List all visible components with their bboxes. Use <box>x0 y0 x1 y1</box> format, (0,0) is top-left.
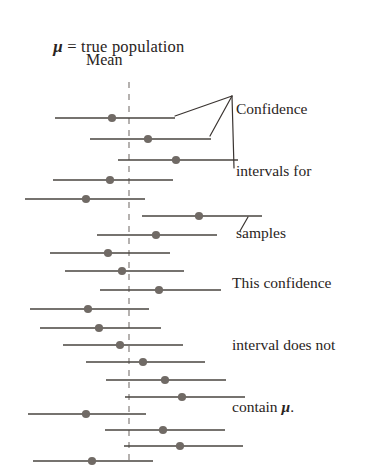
sample-mean-dot <box>139 358 147 366</box>
confidence-interval-9 <box>65 267 184 275</box>
confidence-interval-15 <box>106 376 226 384</box>
confidence-interval-2 <box>90 135 211 143</box>
confidence-interval-20 <box>33 457 153 465</box>
confidence-interval-14 <box>86 358 205 366</box>
confidence-interval-19 <box>124 442 243 450</box>
sample-mean-dot <box>118 267 126 275</box>
sample-mean-dot <box>82 410 90 418</box>
sample-mean-dot <box>104 249 112 257</box>
sample-mean-dot <box>106 176 114 184</box>
confidence-interval-diagram: μ = true population Mean Confidence inte… <box>0 0 377 470</box>
interval-series <box>25 114 262 465</box>
sample-mean-dot <box>155 286 163 294</box>
sample-mean-dot <box>84 305 92 313</box>
sample-mean-dot <box>108 114 116 122</box>
confidence-interval-11 <box>30 305 149 313</box>
sample-mean-dot <box>95 324 103 332</box>
interval-plot-svg <box>0 0 377 470</box>
confidence-interval-1 <box>55 114 175 122</box>
confidence-interval-6 <box>142 212 262 220</box>
confidence-interval-8 <box>50 249 170 257</box>
confidence-interval-13 <box>63 341 183 349</box>
confidence-interval-4 <box>53 176 173 184</box>
confidence-interval-18 <box>105 426 225 434</box>
confidence-interval-7 <box>97 231 217 239</box>
confidence-interval-12 <box>40 324 161 332</box>
confidence-intervals-callout-leader-1 <box>175 96 232 116</box>
confidence-interval-17 <box>28 410 146 418</box>
sample-mean-dot <box>144 135 152 143</box>
sample-mean-dot <box>172 156 180 164</box>
sample-mean-dot <box>82 195 90 203</box>
callout-leader-lines <box>175 96 248 231</box>
sample-mean-dot <box>195 212 203 220</box>
confidence-interval-5 <box>25 195 145 203</box>
confidence-interval-3 <box>118 156 238 164</box>
confidence-intervals-callout-leader-3 <box>232 96 234 168</box>
confidence-interval-16 <box>125 393 245 401</box>
sample-mean-dot <box>161 376 169 384</box>
sample-mean-dot <box>176 442 184 450</box>
non-containing-interval-callout-leader-1 <box>240 217 248 231</box>
sample-mean-dot <box>159 426 167 434</box>
sample-mean-dot <box>152 231 160 239</box>
sample-mean-dot <box>88 457 96 465</box>
sample-mean-dot <box>178 393 186 401</box>
confidence-interval-10 <box>100 286 221 294</box>
sample-mean-dot <box>116 341 124 349</box>
